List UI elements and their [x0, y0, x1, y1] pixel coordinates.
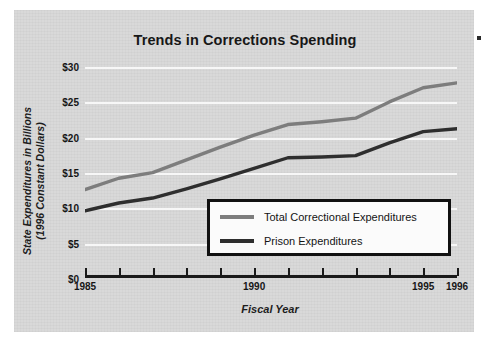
x-axis-line [85, 275, 457, 278]
y-axis-tick-label: $20 [37, 133, 79, 144]
x-axis-tick [153, 268, 155, 276]
legend-swatch-prison [220, 239, 254, 243]
x-axis-tick-label: 1996 [446, 281, 468, 292]
chart-legend: Total Correctional Expenditures Prison E… [207, 199, 451, 256]
legend-label-total-correctional: Total Correctional Expenditures [264, 211, 417, 223]
y-axis-tick-label: $0 [37, 274, 79, 285]
x-axis-tick [389, 268, 391, 276]
x-axis-tick [457, 268, 459, 276]
x-axis-tick [356, 268, 358, 276]
x-axis-tick [254, 268, 256, 276]
legend-swatch-total-correctional [220, 215, 254, 219]
x-axis-tick [322, 268, 324, 276]
scan-artifact-dot [477, 36, 481, 40]
legend-entry-prison: Prison Expenditures [220, 231, 362, 251]
y-axis-tick-label: $25 [37, 97, 79, 108]
x-axis-title: Fiscal Year [80, 303, 460, 315]
x-axis-tick [423, 268, 425, 276]
y-axis-tick-labels: $0$5$10$15$20$25$30 [33, 68, 79, 280]
y-axis-tick-label: $15 [37, 168, 79, 179]
x-axis-tick [288, 268, 290, 276]
x-axis-tick-label: 1995 [412, 281, 434, 292]
legend-label-prison: Prison Expenditures [264, 235, 362, 247]
y-axis-tick-label: $10 [37, 203, 79, 214]
x-axis-tick [85, 268, 87, 276]
x-axis-tick-label: 1985 [74, 281, 96, 292]
x-axis-tick [220, 268, 222, 276]
legend-entry-total-correctional: Total Correctional Expenditures [220, 207, 417, 227]
chart-title: Trends in Corrections Spending [0, 32, 490, 48]
x-axis-tick [119, 268, 121, 276]
chart-figure: Trends in Corrections Spending State Exp… [0, 0, 490, 342]
series-line [85, 83, 457, 190]
y-axis-tick-label: $30 [37, 62, 79, 73]
x-axis-tick [186, 268, 188, 276]
y-axis-tick-label: $5 [37, 239, 79, 250]
x-axis-tick-label: 1990 [243, 281, 265, 292]
